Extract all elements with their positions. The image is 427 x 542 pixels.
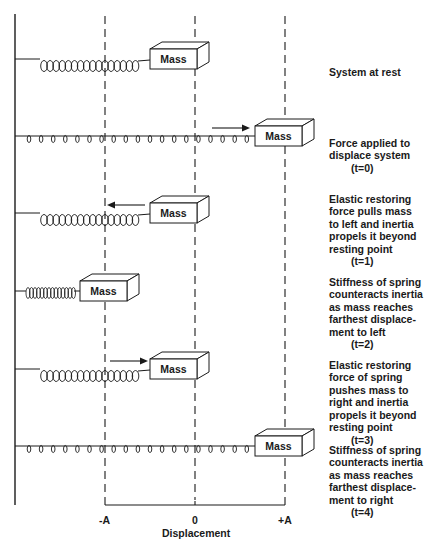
- displacement-axis: [105, 500, 285, 505]
- mass-label: Mass: [265, 130, 291, 142]
- spring: [15, 446, 255, 453]
- axis-tick-neg-a: -A: [99, 514, 110, 526]
- mass-block: Mass: [80, 274, 139, 301]
- mass-block: Mass: [150, 352, 209, 379]
- caption-rest: System at rest: [329, 53, 401, 78]
- row-t2: Mass: [15, 274, 139, 301]
- mass-block: Mass: [150, 42, 209, 69]
- caption-text: Stiffness of spring counteracts inertia …: [329, 444, 423, 506]
- caption-time: (t=0): [329, 162, 410, 175]
- spring: [15, 213, 150, 226]
- caption-text: Elastic restoring force of spring pushes…: [329, 359, 417, 434]
- mass-block: Mass: [150, 196, 209, 223]
- axis-tick-zero: 0: [192, 514, 198, 526]
- mass-label: Mass: [265, 440, 291, 452]
- rows-layer: MassMassMassMassMassMass: [15, 42, 314, 456]
- row-rest: Mass: [15, 42, 209, 72]
- spring: [15, 59, 150, 72]
- caption-time: (t=4): [329, 506, 423, 519]
- caption-t4: Stiffness of spring counteracts inertia …: [329, 431, 423, 531]
- mass-label: Mass: [160, 53, 186, 65]
- spring: [15, 369, 150, 382]
- row-t1: Mass: [15, 196, 209, 226]
- row-t0: Mass: [15, 119, 314, 146]
- spring: [15, 288, 80, 299]
- axis-tick-pos-a: +A: [278, 514, 292, 526]
- caption-text: Stiffness of spring counteracts inertia …: [329, 276, 423, 338]
- mass-block: Mass: [255, 429, 314, 456]
- spring: [15, 136, 255, 143]
- mass-label: Mass: [160, 207, 186, 219]
- caption-text: Force applied to displace system: [329, 137, 410, 162]
- arrow-left-icon: [107, 202, 145, 209]
- arrow-right-icon: [110, 358, 148, 365]
- caption-t0: Force applied to displace system (t=0): [329, 124, 410, 187]
- arrow-right-icon: [212, 125, 250, 132]
- mass-block: Mass: [255, 119, 314, 146]
- axis-title: Displacement: [162, 527, 230, 539]
- row-t3: Mass: [15, 352, 209, 382]
- row-t4: Mass: [15, 429, 314, 456]
- mass-label: Mass: [160, 363, 186, 375]
- caption-text: System at rest: [329, 66, 401, 78]
- caption-text: Elastic restoring force pulls mass to le…: [329, 193, 417, 255]
- mass-label: Mass: [90, 285, 116, 297]
